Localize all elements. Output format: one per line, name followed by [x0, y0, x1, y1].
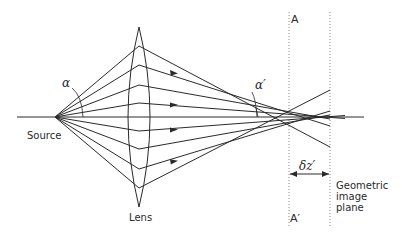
alpha-label: α: [62, 76, 70, 90]
geometric-image-plane-label: Geometric image plane: [336, 180, 388, 213]
alpha-prime-label: α′: [255, 78, 266, 92]
plane-a-bottom-label: A′: [290, 212, 300, 225]
delta-z-label: δz′: [299, 159, 315, 173]
plane-a-top-label: A: [291, 13, 299, 26]
geometric-image-plane-line1: Geometric: [336, 180, 388, 191]
alpha-prime-arc: [252, 92, 257, 117]
source-label: Source: [27, 130, 61, 141]
geometric-image-plane-line3: plane: [336, 202, 388, 213]
lens-label: Lens: [129, 212, 152, 223]
geometric-image-plane-line2: image: [336, 191, 388, 202]
